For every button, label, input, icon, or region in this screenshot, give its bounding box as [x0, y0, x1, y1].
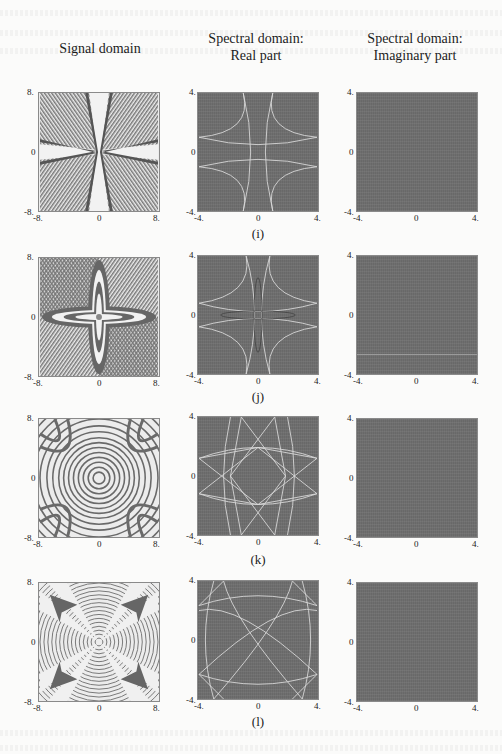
x-tick-mid: 0 — [414, 214, 419, 223]
spectral-real-panel-i — [197, 92, 319, 212]
x-tick-max: 4. — [314, 538, 321, 547]
bleed-through-text — [0, 730, 502, 736]
x-tick-min: -4. — [194, 538, 204, 547]
x-tick-min: -4. — [353, 704, 363, 713]
y-tick-mid: 0 — [31, 638, 36, 647]
y-tick-max: 4. — [189, 251, 196, 260]
row-caption: (k) — [238, 552, 278, 568]
x-tick-max: 8. — [153, 379, 160, 388]
header-line: Real part — [181, 47, 331, 64]
y-tick-mid: 0 — [349, 148, 354, 157]
y-tick-max: 4. — [347, 414, 354, 423]
y-tick-mid: 0 — [31, 474, 36, 483]
x-tick-mid: 0 — [414, 377, 419, 386]
y-tick-max: 4. — [189, 412, 196, 421]
y-tick-mid: 0 — [349, 638, 354, 647]
x-tick-min: -4. — [353, 214, 363, 223]
spectral-real-panel-j — [197, 255, 319, 375]
spectral-imag-panel-i — [356, 92, 478, 212]
y-tick-max: 4. — [347, 251, 354, 260]
y-tick-mid: 0 — [191, 472, 196, 481]
x-tick-mid: 0 — [256, 214, 261, 223]
column-header-imaginary: Spectral domain: Imaginary part — [340, 30, 490, 64]
x-tick-max: 4. — [472, 377, 479, 386]
y-tick-mid: 0 — [349, 474, 354, 483]
row-caption: (l) — [238, 714, 278, 730]
x-tick-max: 4. — [472, 704, 479, 713]
row-caption: (i) — [238, 226, 278, 242]
x-tick-min: -8. — [33, 540, 43, 549]
header-line: Spectral domain: — [340, 30, 490, 47]
signal-panel-k — [38, 418, 160, 538]
x-tick-mid: 0 — [256, 538, 261, 547]
x-tick-max: 4. — [314, 214, 321, 223]
signal-panel-l — [38, 582, 160, 702]
bleed-through-text — [0, 10, 502, 16]
y-tick-mid: 0 — [191, 636, 196, 645]
signal-panel-i — [38, 92, 160, 212]
row-caption: (j) — [238, 389, 278, 405]
spectral-real-panel-k — [197, 416, 319, 536]
x-tick-mid: 0 — [97, 379, 102, 388]
x-tick-mid: 0 — [414, 704, 419, 713]
header-line: Spectral domain: — [181, 30, 331, 47]
x-tick-max: 8. — [153, 214, 160, 223]
y-tick-mid: 0 — [191, 148, 196, 157]
x-tick-min: -4. — [353, 540, 363, 549]
x-tick-min: -4. — [353, 377, 363, 386]
x-tick-max: 4. — [472, 214, 479, 223]
x-tick-mid: 0 — [256, 377, 261, 386]
y-tick-max: 8. — [27, 578, 34, 587]
x-tick-min: -4. — [194, 702, 204, 711]
signal-panel-j — [38, 257, 160, 377]
y-tick-max: 4. — [189, 88, 196, 97]
y-tick-mid: 0 — [31, 313, 36, 322]
x-tick-min: -4. — [194, 377, 204, 386]
header-line: Imaginary part — [340, 47, 490, 64]
x-tick-min: -8. — [33, 379, 43, 388]
column-header-real: Spectral domain: Real part — [181, 30, 331, 64]
spectral-real-panel-l — [197, 580, 319, 700]
x-tick-max: 4. — [314, 702, 321, 711]
bleed-through-text — [0, 745, 502, 751]
header-line: Signal domain — [25, 40, 175, 57]
x-tick-max: 8. — [153, 540, 160, 549]
x-tick-mid: 0 — [256, 702, 261, 711]
y-tick-mid: 0 — [31, 148, 36, 157]
y-tick-mid: 0 — [349, 311, 354, 320]
column-header-signal: Signal domain — [25, 40, 175, 57]
y-tick-mid: 0 — [191, 311, 196, 320]
y-tick-max: 4. — [347, 88, 354, 97]
spectral-imag-panel-j — [356, 255, 478, 375]
spectral-imag-panel-k — [356, 418, 478, 538]
x-tick-mid: 0 — [97, 704, 102, 713]
x-tick-min: -4. — [194, 214, 204, 223]
y-tick-max: 8. — [27, 88, 34, 97]
y-tick-max: 8. — [27, 414, 34, 423]
x-tick-min: -8. — [33, 214, 43, 223]
x-tick-mid: 0 — [97, 540, 102, 549]
x-tick-mid: 0 — [414, 540, 419, 549]
x-tick-min: -8. — [33, 704, 43, 713]
x-tick-max: 4. — [314, 377, 321, 386]
x-tick-max: 4. — [472, 540, 479, 549]
y-tick-max: 8. — [27, 253, 34, 262]
y-tick-max: 4. — [189, 576, 196, 585]
spectral-imag-panel-l — [356, 582, 478, 702]
x-tick-mid: 0 — [97, 214, 102, 223]
x-tick-max: 8. — [153, 704, 160, 713]
y-tick-max: 4. — [347, 578, 354, 587]
